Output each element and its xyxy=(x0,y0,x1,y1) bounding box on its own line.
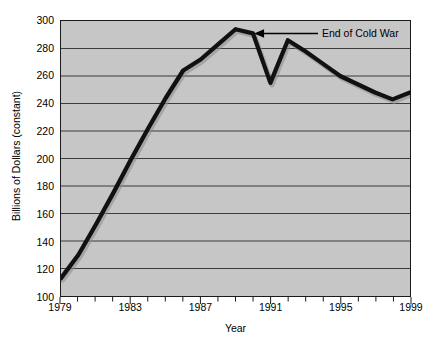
y-tick-label: 300 xyxy=(20,15,54,25)
x-tick-label: 1983 xyxy=(100,301,160,313)
y-axis-title-wrap: Billions of Dollars (constant) xyxy=(0,0,1,1)
x-tick-label: 1999 xyxy=(381,301,433,313)
y-tick-label: 200 xyxy=(20,154,54,164)
y-tick-label: 240 xyxy=(20,98,54,108)
x-tick-label: 1991 xyxy=(241,301,301,313)
y-tick-label: 140 xyxy=(20,237,54,247)
plot-area xyxy=(60,20,411,297)
x-tick-label: 1979 xyxy=(30,301,90,313)
y-axis-title: Billions of Dollars (constant) xyxy=(10,56,22,256)
x-tick-label: 1987 xyxy=(170,301,230,313)
y-tick-label: 260 xyxy=(20,70,54,80)
annotation-label: End of Cold War xyxy=(322,27,399,39)
series-line xyxy=(61,21,410,296)
y-tick-label: 160 xyxy=(20,209,54,219)
x-axis-title: Year xyxy=(60,322,411,334)
chart-figure: 100120140160180200220240260280300 Billio… xyxy=(0,0,433,345)
x-tick-label: 1995 xyxy=(311,301,371,313)
y-tick-label: 280 xyxy=(20,43,54,53)
x-axis-tick-labels: 197919831987199119951999 xyxy=(60,301,411,317)
y-tick-label: 120 xyxy=(20,264,54,274)
y-tick-label: 180 xyxy=(20,181,54,191)
y-tick-label: 220 xyxy=(20,126,54,136)
